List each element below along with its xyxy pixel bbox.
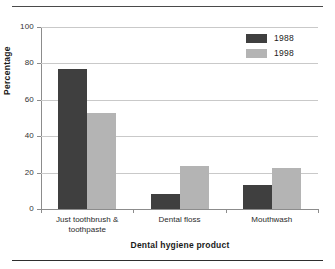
bar [180, 166, 209, 209]
x-tick-mark [41, 209, 42, 213]
y-tick-label: 80 [8, 59, 34, 67]
top-divider-rule [12, 6, 323, 7]
bar-chart-figure: Percentage 020406080100 Just toothbrush … [0, 0, 335, 269]
legend-swatch [246, 34, 267, 43]
x-category-label: Just toothbrush &toothpaste [41, 215, 133, 235]
bar [272, 168, 301, 209]
y-axis-title: Percentage [2, 46, 12, 95]
x-category-label-line: Mouthwash [226, 215, 318, 225]
x-category-label: Mouthwash [226, 215, 318, 225]
y-tick-label: 20 [8, 169, 34, 177]
bar [151, 194, 180, 209]
x-category-label-line: Just toothbrush & [41, 215, 133, 225]
x-axis-line [41, 209, 319, 210]
bar [243, 185, 272, 209]
legend-label: 1988 [274, 34, 294, 43]
x-axis-title: Dental hygiene product [41, 240, 319, 250]
legend-label: 1998 [274, 49, 294, 58]
y-tick-label: 60 [8, 96, 34, 104]
bottom-divider-rule [12, 260, 323, 261]
legend-swatch [246, 49, 267, 58]
y-tick-label: 0 [8, 205, 34, 213]
x-tick-mark [318, 209, 319, 213]
x-category-label-line: toothpaste [41, 225, 133, 235]
chart-legend: 19881998 [246, 32, 294, 62]
legend-item: 1988 [246, 32, 294, 45]
gridline [41, 63, 318, 64]
legend-item: 1998 [246, 47, 294, 60]
x-tick-mark [133, 209, 134, 213]
gridline [41, 27, 318, 28]
y-tick-label: 40 [8, 132, 34, 140]
x-category-label-line: Dental floss [133, 215, 225, 225]
y-tick-label: 100 [8, 23, 34, 31]
bar [58, 69, 87, 209]
x-tick-mark [226, 209, 227, 213]
x-category-label: Dental floss [133, 215, 225, 225]
bar [87, 113, 116, 209]
